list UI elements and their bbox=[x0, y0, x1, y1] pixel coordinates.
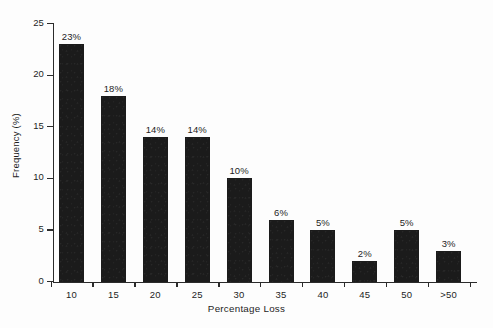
bar-value-label: 6% bbox=[260, 207, 302, 218]
x-axis-tick bbox=[386, 282, 387, 287]
x-axis-tick bbox=[176, 282, 177, 287]
bar-value-label: 3% bbox=[428, 238, 470, 249]
bar bbox=[59, 44, 84, 281]
y-axis-tick bbox=[47, 229, 54, 230]
x-axis-tick bbox=[260, 282, 261, 287]
x-axis-tick-label: 40 bbox=[302, 289, 344, 300]
y-axis-line bbox=[53, 23, 54, 283]
x-axis-tick-label: 25 bbox=[176, 289, 218, 300]
bar-value-label: 5% bbox=[302, 217, 344, 228]
x-axis-tick-label: 50 bbox=[386, 289, 428, 300]
x-axis-tick-label: >50 bbox=[428, 289, 470, 300]
x-axis-tick bbox=[51, 282, 52, 287]
y-axis-title: Frequency (%) bbox=[10, 86, 21, 206]
plot-area: 0510152025 101520253035404550>50 23%18%1… bbox=[0, 0, 493, 328]
y-axis-tick bbox=[47, 126, 54, 127]
x-axis-tick bbox=[344, 282, 345, 287]
bar bbox=[394, 230, 419, 282]
bar-value-label: 23% bbox=[51, 31, 93, 42]
bar-value-label: 5% bbox=[386, 217, 428, 228]
bar bbox=[101, 96, 126, 282]
bar-value-label: 14% bbox=[176, 124, 218, 135]
x-axis-tick bbox=[134, 282, 135, 287]
bar-value-label: 2% bbox=[344, 248, 386, 259]
x-axis-title: Percentage Loss bbox=[0, 303, 493, 314]
bar bbox=[352, 261, 377, 282]
bar bbox=[227, 178, 252, 281]
histogram-chart: 0510152025 101520253035404550>50 23%18%1… bbox=[0, 0, 493, 328]
bar-value-label: 14% bbox=[134, 124, 176, 135]
bar bbox=[143, 137, 168, 281]
y-axis-tick bbox=[47, 178, 54, 179]
x-axis-tick bbox=[92, 282, 93, 287]
x-axis-tick bbox=[218, 282, 219, 287]
y-axis-tick bbox=[47, 23, 54, 24]
x-axis-line bbox=[53, 282, 477, 283]
x-axis-tick bbox=[302, 282, 303, 287]
bar bbox=[310, 230, 335, 282]
bar bbox=[436, 251, 461, 282]
x-axis-tick-label: 20 bbox=[134, 289, 176, 300]
x-axis-tick-label: 30 bbox=[218, 289, 260, 300]
x-axis-tick-label: 45 bbox=[344, 289, 386, 300]
y-axis-tick-label: 5 bbox=[20, 223, 44, 234]
bar bbox=[185, 137, 210, 281]
x-axis-tick bbox=[470, 282, 471, 287]
y-axis-tick-label: 15 bbox=[20, 120, 44, 131]
y-axis-tick-label: 25 bbox=[20, 17, 44, 28]
bar bbox=[269, 220, 294, 282]
y-axis-tick-label: 0 bbox=[20, 275, 44, 286]
x-axis-tick-label: 15 bbox=[92, 289, 134, 300]
x-axis-tick-label: 35 bbox=[260, 289, 302, 300]
bar-value-label: 18% bbox=[92, 83, 134, 94]
y-axis-tick-label: 10 bbox=[20, 171, 44, 182]
y-axis-tick bbox=[47, 75, 54, 76]
bar-value-label: 10% bbox=[218, 165, 260, 176]
y-axis-tick-label: 20 bbox=[20, 68, 44, 79]
x-axis-tick-label: 10 bbox=[51, 289, 93, 300]
x-axis-tick bbox=[428, 282, 429, 287]
